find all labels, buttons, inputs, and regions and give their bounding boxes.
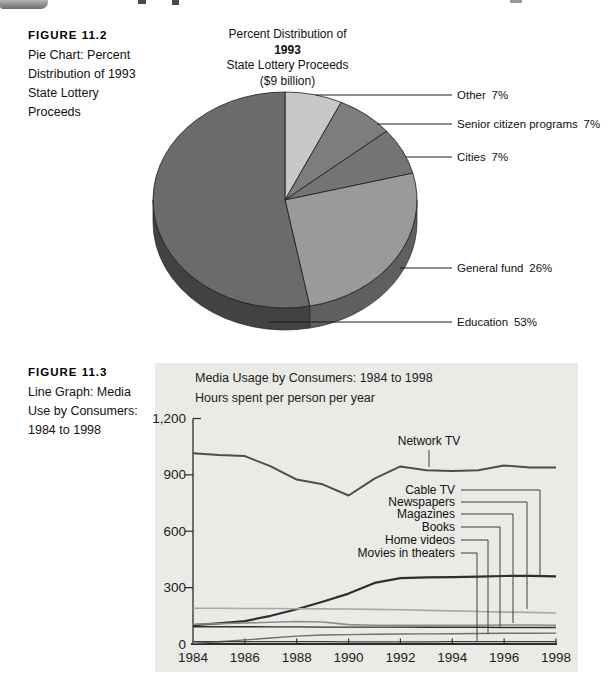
series-line-cable-tv (193, 576, 556, 625)
series-label-magazines: Magazines (397, 507, 455, 521)
y-tick-label: 300 (163, 580, 186, 595)
series-line-network-tv (193, 453, 556, 495)
line-chart-svg: 1,20090060030001984198619881990199219941… (0, 0, 615, 695)
x-tick-label: 1986 (230, 650, 260, 665)
series-label-movies-in-theaters: Movies in theaters (358, 546, 455, 560)
series-line-newspapers (193, 608, 556, 613)
x-tick-label: 1990 (334, 650, 364, 665)
series-line-magazines (193, 622, 556, 626)
x-tick-label: 1988 (282, 650, 312, 665)
series-label-home-videos: Home videos (385, 533, 455, 547)
y-tick-label: 1,200 (152, 411, 186, 426)
x-tick-label: 1998 (541, 650, 571, 665)
book-page: FIGURE 11.2 Pie Chart: Percent Distribut… (0, 0, 615, 695)
series-label-books: Books (422, 520, 455, 534)
y-tick-label: 900 (163, 467, 186, 482)
y-tick-label: 600 (163, 524, 186, 539)
x-tick-label: 1994 (437, 650, 468, 665)
series-line-books (193, 627, 556, 628)
x-tick-label: 1992 (385, 650, 415, 665)
x-tick-label: 1996 (489, 650, 519, 665)
x-tick-label: 1984 (178, 650, 209, 665)
series-label-network-tv: Network TV (398, 434, 460, 448)
